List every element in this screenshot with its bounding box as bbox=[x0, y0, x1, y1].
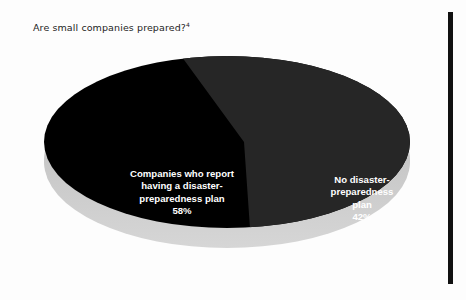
pie-label-not-prepared-line2: preparedness bbox=[306, 186, 418, 198]
chart-title: Are small companies prepared?4 bbox=[33, 22, 190, 34]
pie-label-prepared-line3: preparedness plan bbox=[102, 193, 262, 205]
chart-title-footnote: 4 bbox=[186, 21, 190, 28]
chart-title-text: Are small companies prepared? bbox=[33, 22, 186, 33]
pie-label-prepared-line1: Companies who report bbox=[102, 168, 262, 180]
pie-label-not-prepared: No disaster- preparedness plan 42% bbox=[306, 174, 418, 224]
chart-figure: Are small companies prepared?4 bbox=[0, 0, 466, 300]
page-edge-rule bbox=[448, 12, 453, 284]
pie-label-not-prepared-line3: plan bbox=[306, 199, 418, 211]
pie-label-prepared: Companies who report having a disaster- … bbox=[102, 168, 262, 218]
pie-label-prepared-value: 58% bbox=[102, 205, 262, 217]
pie-label-not-prepared-value: 42% bbox=[306, 211, 418, 223]
pie-label-prepared-line2: having a disaster- bbox=[102, 180, 262, 192]
pie-chart: Companies who report having a disaster- … bbox=[44, 56, 410, 248]
pie-label-not-prepared-line1: No disaster- bbox=[306, 174, 418, 186]
